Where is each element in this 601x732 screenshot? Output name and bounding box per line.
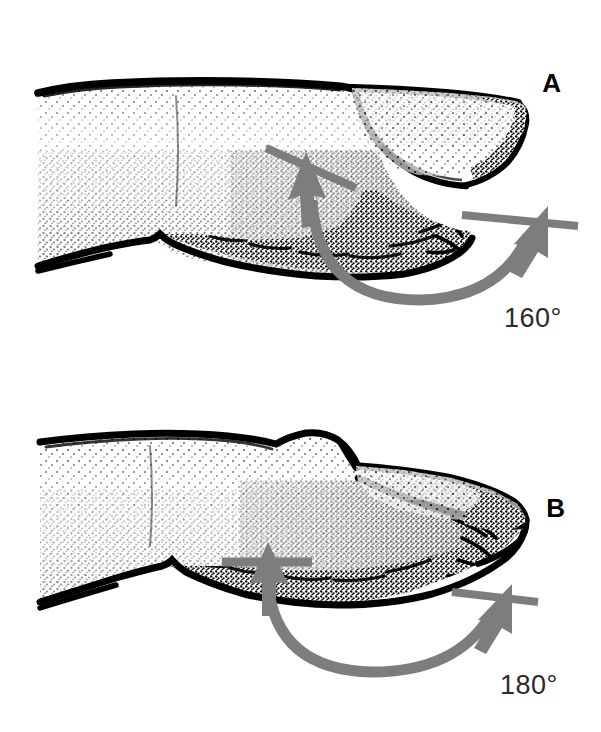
panel-a-normal-finger: A 160° [0, 0, 601, 370]
panel-a-letter: A [542, 70, 561, 96]
panel-a-angle-label: 160° [504, 305, 562, 332]
panel-b-letter: B [546, 495, 565, 521]
panel-b-clubbed-finger: B 180° [0, 370, 601, 732]
panel-b-angle-label: 180° [500, 672, 558, 699]
figure-root: A 160° [0, 0, 601, 732]
